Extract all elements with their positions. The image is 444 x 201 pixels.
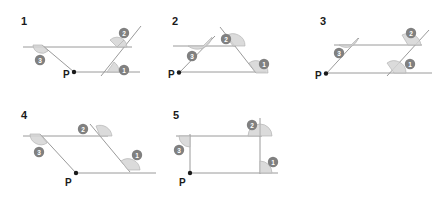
angle-3-wedge — [339, 38, 358, 47]
angle-2-wedge — [260, 124, 272, 136]
angle-1-badge-label: 1 — [271, 159, 275, 166]
angle-1-badge-label: 1 — [122, 67, 126, 74]
figure-3: 3 P 2 1 3 — [296, 0, 444, 100]
figure-1: 1 P 2 1 3 — [0, 0, 150, 100]
figure-2-drawing: P 2 1 3 — [148, 0, 298, 100]
point-p-label: P — [63, 69, 70, 80]
angle-2-badge-label: 2 — [224, 36, 228, 43]
figure-3-number: 3 — [320, 16, 326, 27]
point-p-dot — [72, 70, 76, 74]
angle-3-badge-label: 3 — [190, 53, 194, 60]
point-p-label: P — [65, 177, 72, 188]
left-transversal — [40, 134, 76, 173]
point-p-dot — [324, 71, 328, 75]
figure-5: 5 P 2 1 3 — [160, 100, 320, 201]
point-p-dot — [188, 171, 192, 175]
figure-3-drawing: P 2 1 3 — [296, 0, 444, 100]
point-p-label: P — [179, 177, 186, 188]
figure-1-number: 1 — [21, 16, 27, 27]
left-transversal — [42, 45, 74, 72]
angle-1-badge-label: 1 — [135, 152, 139, 159]
angle-1-badge-label: 1 — [262, 61, 266, 68]
point-p-dot — [177, 70, 181, 74]
angle-3-badge-label: 3 — [177, 147, 181, 154]
angle-3-badge-label: 3 — [37, 149, 41, 156]
figure-2: 2 P 2 1 3 — [148, 0, 298, 100]
angle-1-wedge — [121, 159, 140, 170]
figure-4: 4 P 2 1 3 — [0, 100, 160, 201]
figures-canvas: 1 P 2 1 3 — [0, 0, 444, 201]
angle-2-badge-label: 2 — [250, 122, 254, 129]
angle-3-badge-label: 3 — [337, 50, 341, 57]
angle-3-wedge — [33, 45, 48, 53]
figure-2-number: 2 — [172, 16, 178, 27]
angle-3-wedge — [188, 37, 212, 49]
angle-3-badge-label: 3 — [38, 57, 42, 64]
angle-2-badge-label: 2 — [409, 30, 413, 37]
figure-5-drawing: P 2 1 3 — [160, 100, 320, 201]
figure-4-number: 4 — [21, 110, 27, 121]
figure-5-number: 5 — [173, 110, 179, 121]
point-p-dot — [74, 171, 78, 175]
angle-2-badge-label: 2 — [122, 30, 126, 37]
angle-1-wedge — [387, 61, 406, 73]
angle-1-badge-label: 1 — [408, 61, 412, 68]
point-p-label: P — [315, 70, 322, 81]
angle-2-badge-label: 2 — [81, 126, 85, 133]
point-p-label: P — [168, 69, 175, 80]
